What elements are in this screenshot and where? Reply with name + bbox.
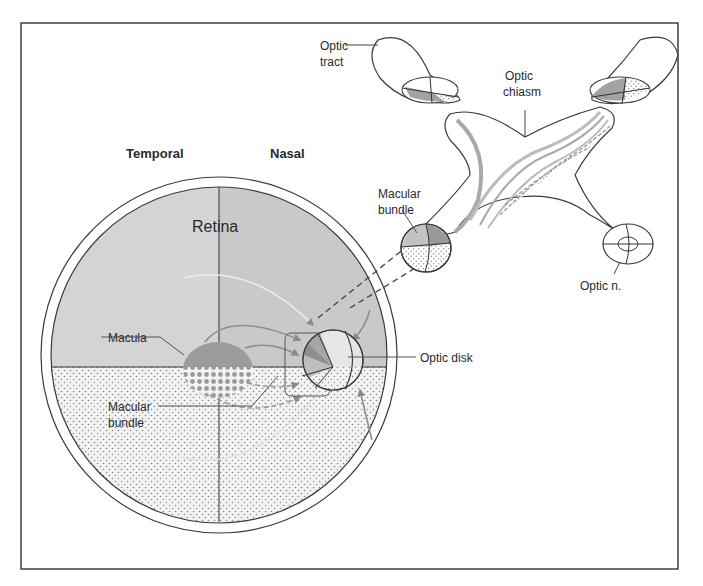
label-temporal: Temporal [126,146,184,161]
optic-tract-left [345,38,460,103]
label-nasal: Nasal [270,146,305,161]
optic-chiasm [425,107,615,235]
label-optic-tract-line1: Optic [320,39,348,53]
optic-tract-right [590,37,678,104]
anatomy-diagram: Temporal Nasal Retina Macula Macular bun… [0,0,703,586]
label-macular-bundle-nerve-line1: Macular [378,187,421,201]
label-macular-bundle-retina-line1: Macular [108,400,151,414]
label-optic-chiasm-line2: chiasm [503,85,541,99]
label-macula: Macula [108,331,147,345]
optic-nerve-section-right [603,224,653,274]
label-optic-tract-line2: tract [320,55,344,69]
optic-nerve-section-left [401,224,451,272]
label-macular-bundle-retina-line2: bundle [108,416,144,430]
label-optic-nerve: Optic n. [580,279,621,293]
macula [183,342,253,398]
label-optic-disk: Optic disk [420,351,474,365]
label-retina: Retina [192,218,238,235]
label-optic-chiasm-line1: Optic [505,69,533,83]
label-macular-bundle-nerve-line2: bundle [378,203,414,217]
